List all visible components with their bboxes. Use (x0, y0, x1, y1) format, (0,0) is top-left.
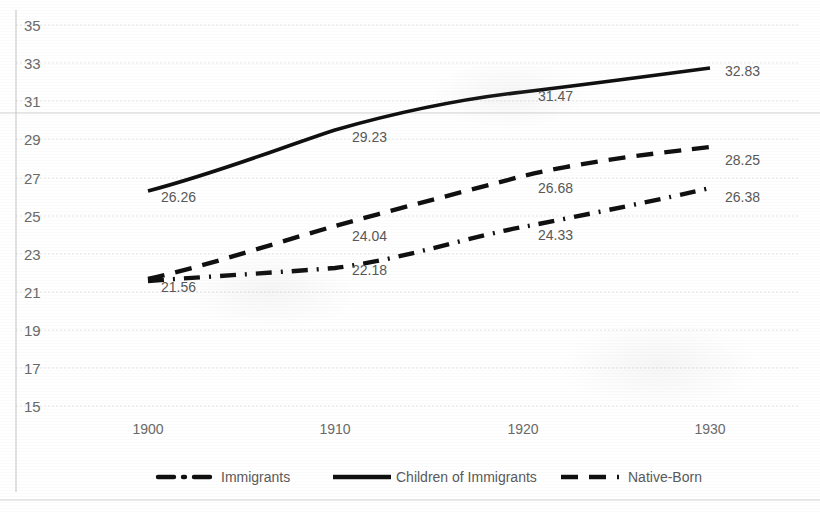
series-children-of-immigrants (148, 68, 710, 191)
chart-canvas: 35 33 31 29 27 25 23 21 19 17 15 1900 19… (0, 0, 820, 512)
x-tick-label: 1920 (507, 421, 538, 437)
data-label-immigrants-1920: 24.33 (538, 227, 573, 243)
data-label-immigrants-1910: 22.18 (352, 262, 387, 278)
legend-item-children-of-immigrants[interactable]: Children of Immigrants (333, 469, 537, 485)
x-tick-label: 1930 (694, 421, 725, 437)
legend-label-immigrants: Immigrants (221, 469, 290, 485)
y-tick-label: 17 (24, 360, 41, 377)
x-axis-tick-labels: 1900 1910 1920 1930 (132, 421, 725, 437)
legend-item-native-born[interactable]: Native-Born (561, 469, 702, 485)
y-tick-label: 33 (24, 55, 41, 72)
legend-item-immigrants[interactable]: Immigrants (158, 469, 290, 485)
y-tick-label: 21 (24, 284, 41, 301)
y-tick-label: 25 (24, 208, 41, 225)
gridlines (16, 25, 800, 406)
data-label-children-1920: 31.47 (538, 88, 573, 104)
y-tick-label: 29 (24, 131, 41, 148)
y-tick-label: 23 (24, 246, 41, 263)
data-label-children-1930: 32.83 (725, 63, 760, 79)
y-tick-label: 19 (24, 322, 41, 339)
legend-label-children-of-immigrants: Children of Immigrants (396, 469, 537, 485)
data-label-native-1930: 28.25 (725, 152, 760, 168)
y-axis-tick-labels: 35 33 31 29 27 25 23 21 19 17 15 (24, 17, 41, 415)
y-tick-label: 31 (24, 93, 41, 110)
y-tick-label: 27 (24, 170, 41, 187)
line-chart: 35 33 31 29 27 25 23 21 19 17 15 1900 19… (0, 0, 820, 512)
chart-legend: Immigrants Children of Immigrants Native… (158, 469, 702, 485)
data-label-immigrants-1930: 26.38 (725, 189, 760, 205)
data-label-native-1920: 26.68 (538, 180, 573, 196)
data-label-children-1910: 29.23 (352, 129, 387, 145)
y-tick-label: 35 (24, 17, 41, 34)
data-label-immigrants-1900: 21.56 (161, 279, 196, 295)
x-tick-label: 1910 (319, 421, 350, 437)
data-label-children-1900: 26.26 (161, 189, 196, 205)
x-tick-label: 1900 (132, 421, 163, 437)
data-label-native-1910: 24.04 (352, 228, 387, 244)
y-tick-label: 15 (24, 398, 41, 415)
legend-label-native-born: Native-Born (628, 469, 702, 485)
data-point-labels: 26.26 29.23 31.47 32.83 24.04 26.68 28.2… (161, 63, 760, 295)
